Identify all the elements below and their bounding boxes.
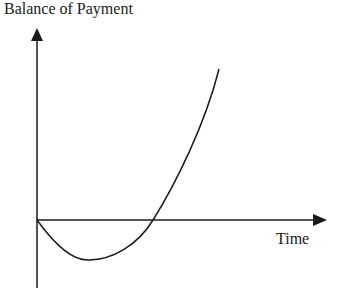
y-axis (31, 28, 43, 288)
y-axis-arrow-icon (31, 28, 43, 41)
x-axis (37, 214, 327, 226)
j-curve-line (37, 69, 219, 260)
j-curve-diagram (0, 0, 339, 303)
x-axis-arrow-icon (313, 214, 327, 226)
